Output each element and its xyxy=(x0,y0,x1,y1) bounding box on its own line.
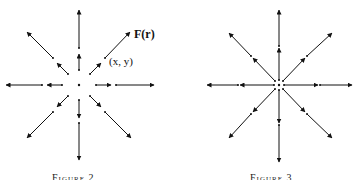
vector-arrow xyxy=(307,114,332,138)
arrow-tail-dot xyxy=(274,80,276,82)
arrow-tail-dot xyxy=(282,88,284,90)
arrow-tail-dot xyxy=(61,84,63,86)
vector-field-diagrams xyxy=(0,0,356,180)
vector-arrow xyxy=(283,89,305,112)
arrow-tail-dot xyxy=(52,111,54,113)
arrow-tail-dot xyxy=(78,47,80,49)
arrow-tail-dot xyxy=(104,111,106,113)
vector-arrow xyxy=(90,63,101,74)
arrow-tail-dot xyxy=(278,124,280,126)
arrow-tail-dot xyxy=(282,80,284,82)
arrow-tail-dot xyxy=(104,57,106,59)
vector-arrow xyxy=(253,58,275,81)
vector-arrow xyxy=(253,89,275,112)
arrow-tail-dot xyxy=(319,84,321,86)
force-vector-label: F(r) xyxy=(134,27,155,42)
arrow-tail-dot xyxy=(52,57,54,59)
figure-2-caption: Figure 2 xyxy=(52,172,94,180)
arrow-tail-dot xyxy=(89,73,91,75)
origin-point xyxy=(78,84,80,86)
arrow-tail-dot xyxy=(278,89,280,91)
vector-arrow xyxy=(229,114,251,138)
vector-arrow xyxy=(283,58,305,81)
vector-arrow xyxy=(57,96,68,107)
arrow-tail-dot xyxy=(41,84,43,86)
vector-arrow xyxy=(57,63,68,74)
vector-arrow xyxy=(27,32,53,58)
arrow-tail-dot xyxy=(278,79,280,81)
arrow-tail-dot xyxy=(78,122,80,124)
arrow-tail-dot xyxy=(89,95,91,97)
point-label: (x, y) xyxy=(109,55,133,67)
arrow-tail-dot xyxy=(67,95,69,97)
arrow-tail-dot xyxy=(67,73,69,75)
figure-3-caption: Figure 3 xyxy=(250,172,292,180)
vector-arrow xyxy=(229,33,251,56)
arrow-tail-dot xyxy=(273,84,275,86)
vector-arrow xyxy=(27,112,53,138)
arrow-tail-dot xyxy=(95,84,97,86)
arrow-tail-dot xyxy=(115,84,117,86)
arrow-tail-dot xyxy=(274,88,276,90)
arrow-tail-dot xyxy=(250,55,252,57)
radial-field-figure-right xyxy=(207,10,352,162)
origin-point xyxy=(278,84,280,86)
vector-arrow xyxy=(105,112,131,138)
arrow-tail-dot xyxy=(250,113,252,115)
arrow-tail-dot xyxy=(78,99,80,101)
vector-arrow xyxy=(307,33,332,56)
arrow-tail-dot xyxy=(306,55,308,57)
arrow-tail-dot xyxy=(306,113,308,115)
arrow-tail-dot xyxy=(278,45,280,47)
arrow-tail-dot xyxy=(283,84,285,86)
radial-field-figure-left xyxy=(6,10,154,160)
arrow-tail-dot xyxy=(237,84,239,86)
arrow-tail-dot xyxy=(78,69,80,71)
vector-arrow xyxy=(90,96,101,107)
